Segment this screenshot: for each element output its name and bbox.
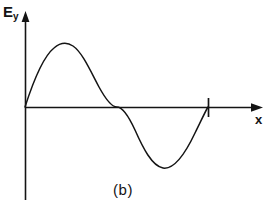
sine-curve xyxy=(25,43,208,168)
x-axis-label: x xyxy=(255,113,262,126)
y-axis-arrowhead xyxy=(22,11,30,22)
figure-caption: (b) xyxy=(0,181,274,198)
x-axis-arrowhead xyxy=(251,103,263,112)
y-axis-label: Ey xyxy=(3,4,19,22)
figure-caption-text: (b) xyxy=(113,181,133,198)
sine-wave-plot xyxy=(0,0,274,207)
figure-container: Ey x (b) xyxy=(0,0,274,207)
y-axis-label-subscript: y xyxy=(13,11,19,22)
y-axis-label-main: E xyxy=(3,3,13,20)
